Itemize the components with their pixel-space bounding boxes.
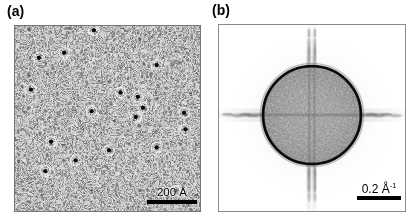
scalebar-b-bar [357, 196, 401, 200]
scalebar-b-exponent: -1 [390, 181, 397, 190]
fft-node-vertical [314, 53, 317, 62]
fft-node-vertical [308, 183, 311, 192]
defect-core [119, 91, 123, 95]
fft-node-vertical [314, 193, 317, 202]
fft-node-vertical [314, 183, 317, 192]
panel-label-b: (b) [212, 3, 230, 17]
defect-core [182, 111, 186, 115]
scalebar-a-label: 200 Å [157, 187, 187, 199]
fft-node-horizontal [247, 114, 258, 117]
defect-core [90, 110, 94, 114]
fft-node-vertical [308, 38, 311, 47]
defect-core [141, 106, 145, 110]
panel-b-disk-cross-v [308, 61, 310, 171]
defect-core [92, 29, 96, 33]
scalebar-b-unit: Å [382, 182, 390, 196]
fft-node-vertical [308, 53, 311, 62]
scalebar-a-bar [147, 200, 197, 204]
fft-node-vertical [308, 175, 311, 184]
panel-b-disk-cross-v2 [313, 61, 315, 171]
defect-core [44, 169, 48, 173]
fft-node-horizontal [391, 114, 402, 117]
fft-node-vertical [314, 28, 317, 37]
defect-core [134, 115, 138, 119]
defect-core [62, 51, 66, 55]
defect-core [155, 63, 159, 67]
fft-node-horizontal [222, 113, 233, 116]
figure-container: (a) (b) [0, 0, 417, 222]
fft-node-horizontal [381, 113, 392, 116]
panel-b-disk-cross-h [258, 113, 368, 116]
defect-core [184, 128, 188, 132]
panel-a-svg [15, 26, 200, 211]
fft-node-vertical [314, 175, 317, 184]
defect-core [37, 56, 41, 60]
fft-node-vertical [308, 193, 311, 202]
scalebar-b: 0.2 Å-1 [357, 183, 401, 200]
panel-a-real-space-image: 200 Å [14, 25, 201, 212]
panel-label-a: (a) [7, 4, 24, 18]
defect-core [29, 88, 33, 92]
panel-b-fourier-transform: 0.2 Å-1 [218, 24, 406, 212]
defect-core [155, 146, 159, 150]
defect-core [136, 95, 140, 99]
scalebar-b-value: 0.2 [362, 182, 379, 196]
defect-core [74, 159, 78, 163]
scalebar-b-label: 0.2 Å-1 [362, 183, 397, 195]
scalebar-a: 200 Å [147, 187, 197, 204]
fft-node-vertical [314, 38, 317, 47]
defect-core [49, 140, 53, 144]
defect-core [107, 149, 111, 153]
fft-node-vertical [308, 28, 311, 37]
